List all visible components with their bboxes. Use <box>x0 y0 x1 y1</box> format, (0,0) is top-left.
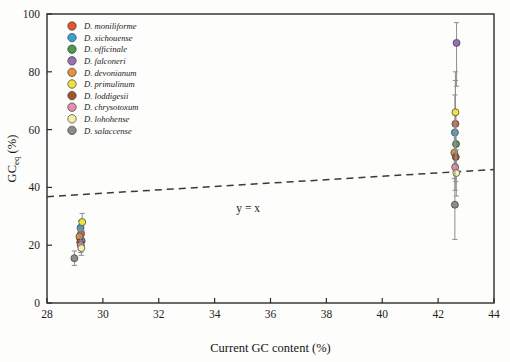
annotation-yx: y = x <box>236 202 260 215</box>
legend-label: D. devonianum <box>83 68 137 78</box>
legend-marker <box>68 91 76 99</box>
legend-marker <box>68 33 76 41</box>
legend-marker <box>68 103 76 111</box>
scatter-marker[interactable] <box>451 201 458 208</box>
legend-item[interactable]: D. moniliforme <box>68 21 137 31</box>
legend-item[interactable]: D. loddigesii <box>68 91 129 101</box>
reference-line-yx <box>47 169 494 196</box>
legend-marker <box>68 57 76 65</box>
x-tick-label: 34 <box>209 308 221 320</box>
x-axis-title: Current GC content (%) <box>210 341 330 355</box>
y-tick-label: 80 <box>29 66 41 78</box>
legend-item[interactable]: D. lohohense <box>68 114 130 124</box>
legend-label: D. officinale <box>83 44 127 54</box>
legend-label: D. moniliforme <box>83 21 137 31</box>
legend-marker <box>68 80 76 88</box>
svg-text:GCeq (%): GCeq (%) <box>5 135 21 183</box>
legend-label: D. xichouense <box>83 33 133 43</box>
x-tick-label: 32 <box>153 308 165 320</box>
legend-item[interactable]: D. falconeri <box>68 56 126 66</box>
data-point[interactable] <box>453 23 460 87</box>
y-axis-title: GCeq (%) <box>5 135 21 183</box>
legend-label: D. chrysotoxum <box>83 102 138 112</box>
y-tick-label: 20 <box>29 239 41 251</box>
x-tick-label: 40 <box>377 308 389 320</box>
scatter-marker[interactable] <box>453 39 460 46</box>
legend: D. moniliformeD. xichouenseD. officinale… <box>68 21 139 135</box>
chart-canvas: 283032343638404244020406080100Current GC… <box>0 0 510 362</box>
legend-item[interactable]: D. salaccense <box>68 126 132 136</box>
data-point[interactable] <box>451 170 458 239</box>
legend-label: D. lohohense <box>83 114 130 124</box>
legend-item[interactable]: D. xichouense <box>68 33 133 43</box>
legend-label: D. loddigesii <box>83 91 129 101</box>
legend-label: D. falconeri <box>83 56 126 66</box>
legend-item[interactable]: D. primulinum <box>68 79 135 89</box>
legend-marker <box>68 45 76 53</box>
legend-label: D. primulinum <box>83 79 135 89</box>
scatter-plot-figure: 283032343638404244020406080100Current GC… <box>0 0 510 362</box>
scatter-marker[interactable] <box>71 255 78 262</box>
x-tick-label: 38 <box>321 308 333 320</box>
x-axis: 283032343638404244 <box>41 298 500 320</box>
legend-item[interactable]: D. chrysotoxum <box>68 102 139 112</box>
x-tick-label: 44 <box>488 308 500 320</box>
x-tick-label: 36 <box>265 308 277 320</box>
x-tick-label: 30 <box>97 308 109 320</box>
data-points <box>71 23 460 266</box>
y-tick-label: 60 <box>29 124 41 136</box>
legend-marker <box>68 68 76 76</box>
legend-marker <box>68 22 76 30</box>
data-point[interactable] <box>71 251 78 265</box>
x-tick-label: 28 <box>41 308 53 320</box>
y-tick-label: 40 <box>29 181 41 193</box>
legend-marker <box>68 126 76 134</box>
y-tick-label: 100 <box>23 8 41 20</box>
scatter-marker[interactable] <box>452 109 459 116</box>
scatter-marker[interactable] <box>79 219 86 226</box>
x-tick-label: 42 <box>432 308 444 320</box>
y-tick-label: 0 <box>34 297 40 309</box>
scatter-marker[interactable] <box>78 245 85 252</box>
legend-label: D. salaccense <box>83 126 132 136</box>
legend-item[interactable]: D. officinale <box>68 44 127 54</box>
legend-item[interactable]: D. devonianum <box>68 68 137 78</box>
scatter-marker[interactable] <box>452 154 459 161</box>
legend-marker <box>68 115 76 123</box>
